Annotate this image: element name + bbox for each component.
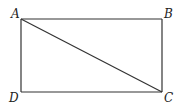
diagonal-ac: [21, 19, 162, 92]
rectangle-diagram: A B C D: [0, 0, 177, 103]
label-d: D: [8, 91, 19, 103]
label-a: A: [10, 7, 20, 21]
label-b: B: [163, 7, 173, 21]
label-c: C: [164, 91, 173, 103]
